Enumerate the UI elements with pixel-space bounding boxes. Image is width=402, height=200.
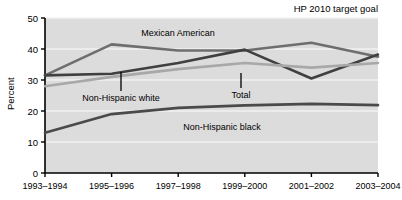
x-tick-label: 1997–1998: [156, 181, 201, 191]
x-axis-ticks: 1993–19941995–19961997–19981999–20002001…: [22, 173, 400, 191]
y-tick-label: 30: [27, 75, 38, 86]
y-tick-label: 40: [27, 44, 38, 55]
series-label-total: Total: [231, 90, 250, 100]
x-tick-label: 2003–2004: [355, 181, 400, 191]
percent-line-chart: 01020304050 1993–19941995–19961997–19981…: [0, 0, 402, 200]
y-tick-label: 10: [27, 137, 38, 148]
hp-target-goal-label: HP 2010 target goal: [294, 3, 378, 14]
y-tick-label: 0: [33, 168, 38, 179]
y-tick-label: 20: [27, 106, 38, 117]
series-label-non-hispanic-white: Non-Hispanic white: [82, 93, 160, 103]
chart-container: 01020304050 1993–19941995–19961997–19981…: [0, 0, 402, 200]
x-tick-label: 2001–2002: [289, 181, 334, 191]
x-tick-label: 1999–2000: [222, 181, 267, 191]
y-axis-ticks: 01020304050: [27, 13, 45, 179]
series-label-non-hispanic-black: Non-Hispanic black: [183, 122, 261, 132]
series-label-mexican-american: Mexican American: [141, 28, 215, 38]
x-tick-label: 1993–1994: [22, 181, 67, 191]
y-axis-title: Percent: [5, 77, 16, 110]
y-tick-label: 50: [27, 13, 38, 24]
x-tick-label: 1995–1996: [89, 181, 134, 191]
